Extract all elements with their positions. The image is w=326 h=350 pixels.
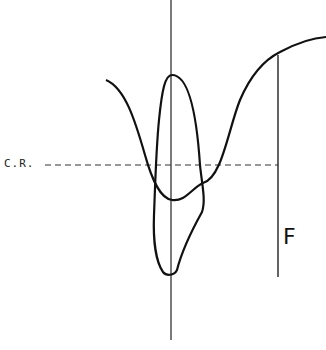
f-label: F xyxy=(283,224,296,249)
closed-loop xyxy=(154,75,204,275)
diagram-canvas xyxy=(0,0,326,350)
wave-curve xyxy=(106,37,326,200)
cr-label: C.R. xyxy=(4,157,35,170)
